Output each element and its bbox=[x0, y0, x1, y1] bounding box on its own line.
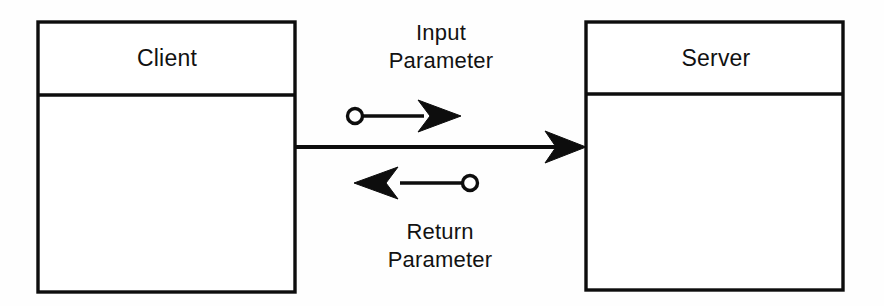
return-parameter-arrowhead-icon bbox=[354, 167, 398, 199]
input-parameter-ball-icon bbox=[348, 109, 363, 124]
connector-return-parameter[interactable] bbox=[354, 167, 478, 199]
return-parameter-label-line2: Parameter bbox=[388, 247, 493, 272]
node-server[interactable]: Server bbox=[586, 22, 843, 290]
input-parameter-label: Input Parameter bbox=[389, 20, 494, 73]
connector-input-parameter[interactable] bbox=[348, 100, 462, 132]
client-label: Client bbox=[137, 45, 197, 71]
input-parameter-arrowhead-icon bbox=[418, 100, 461, 132]
return-parameter-label: Return Parameter bbox=[388, 219, 493, 272]
server-label: Server bbox=[682, 45, 751, 71]
return-parameter-ball-icon bbox=[463, 176, 478, 191]
input-parameter-label-line2: Parameter bbox=[389, 48, 494, 73]
connector-call-link[interactable] bbox=[295, 131, 586, 163]
diagram-svg: Client Server Input Parameter bbox=[0, 0, 884, 306]
node-client[interactable]: Client bbox=[38, 22, 295, 292]
diagram-canvas: Client Server Input Parameter bbox=[0, 0, 884, 306]
return-parameter-label-line1: Return bbox=[406, 219, 473, 244]
input-parameter-label-line1: Input bbox=[416, 20, 466, 45]
